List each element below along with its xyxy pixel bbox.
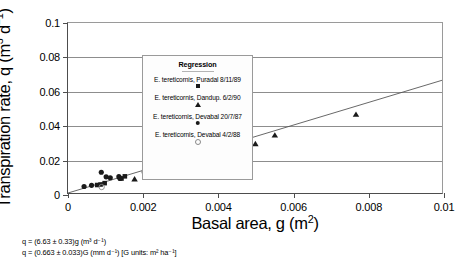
y-axis-title-mid: d (0, 25, 13, 38)
legend-marker-filled-square-icon (143, 83, 252, 91)
data-point-filled-circle (99, 170, 104, 175)
legend-box: Regression E. tereticornis, Puradal 8/11… (142, 55, 253, 180)
filled-triangle-icon (195, 102, 201, 107)
y-axis-title-exp-cubic: 3 (0, 38, 5, 44)
data-point-filled-circle (81, 184, 86, 189)
equation-line-2: q = (0.663 ± 0.033)G (mm d⁻¹) [G units: … (22, 247, 177, 258)
data-point-filled-circle (117, 176, 122, 181)
legend-marker-open-circle-icon (143, 138, 252, 146)
x-axis-tick-label: 0 (65, 201, 71, 213)
x-axis-tick-label: 0.002 (130, 201, 157, 213)
data-point-filled-triangle (353, 111, 359, 116)
legend-entry-2[interactable]: E. tereticornis, Dandup. 6/2/90 (143, 94, 252, 109)
legend-entry-label: E. tereticornis, Devabal 20/7/87 (143, 113, 252, 120)
y-axis-title-text: Transpiration rate, q (m (0, 44, 13, 208)
filled-square-icon (196, 84, 200, 88)
data-point-filled-square (123, 174, 128, 179)
x-axis-tick (143, 193, 144, 198)
y-axis-tick-label: 0.08 (39, 51, 60, 63)
filled-circle-icon (195, 121, 200, 126)
data-point-filled-circle (89, 183, 94, 188)
y-axis-tick-label: 0 (54, 189, 60, 201)
legend-entry-label: E. tereticornis, Devabal 4/2/88 (143, 131, 252, 138)
x-axis-tick (294, 193, 295, 198)
x-axis-tick (369, 193, 370, 198)
series-3-points (81, 157, 149, 189)
x-axis-tick (444, 193, 445, 198)
legend-entry-3[interactable]: E. tereticornis, Devabal 20/7/87 (143, 113, 252, 128)
open-circle-icon (195, 139, 201, 145)
data-point-filled-triangle (272, 132, 278, 137)
data-point-filled-circle (108, 175, 113, 180)
y-axis-tick-label: 0.04 (39, 120, 60, 132)
legend-title: Regression (143, 60, 252, 69)
x-axis-title: Basal area, g (m2) (191, 214, 318, 233)
chart-figure: Transpiration rate, q (m3 d−1) Basal are… (0, 0, 455, 265)
legend-marker-filled-circle-icon (143, 120, 252, 128)
legend-entry-label: E. tereticornis, Puradal 8/11/89 (143, 76, 252, 83)
x-axis-tick-label: 0.004 (205, 201, 232, 213)
x-axis-title-text: Basal area, g (m (191, 214, 307, 232)
data-point-filled-triangle (252, 141, 258, 146)
y-axis-title-close: ) (0, 8, 13, 13)
y-axis-tick-label: 0.1 (45, 17, 60, 29)
y-axis-tick-label: 0.06 (39, 86, 60, 98)
y-axis-title: Transpiration rate, q (m3 d−1) (0, 8, 14, 208)
x-axis-tick (68, 193, 69, 198)
x-axis-title-close: ) (313, 214, 318, 232)
x-axis-tick-label: 0.01 (434, 201, 455, 213)
legend-entry-4[interactable]: E. tereticornis, Devabal 4/2/88 (143, 131, 252, 146)
legend-marker-filled-triangle-icon (143, 101, 252, 109)
legend-entry-1[interactable]: E. tereticornis, Puradal 8/11/89 (143, 76, 252, 91)
data-point-filled-triangle (131, 176, 137, 181)
equation-caption: q = (6.63 ± 0.33)g (m³ d⁻¹) q = (0.663 ±… (22, 236, 177, 258)
y-axis-tick-label: 0.02 (39, 155, 60, 167)
x-axis-tick (218, 193, 219, 198)
y-axis-title-exp-neg1: −1 (0, 13, 5, 25)
equation-line-1: q = (6.63 ± 0.33)g (m³ d⁻¹) (22, 236, 177, 247)
legend-entry-label: E. tereticornis, Dandup. 6/2/90 (143, 94, 252, 101)
data-canvas (68, 23, 442, 193)
x-axis-tick-label: 0.008 (356, 201, 383, 213)
legend-entries: E. tereticornis, Puradal 8/11/89E. teret… (143, 76, 252, 147)
legend-title-rule (182, 71, 214, 72)
plot-area: 00.020.040.060.080.1 00.0020.0040.0060.0… (67, 22, 443, 194)
x-axis-tick-label: 0.006 (280, 201, 307, 213)
